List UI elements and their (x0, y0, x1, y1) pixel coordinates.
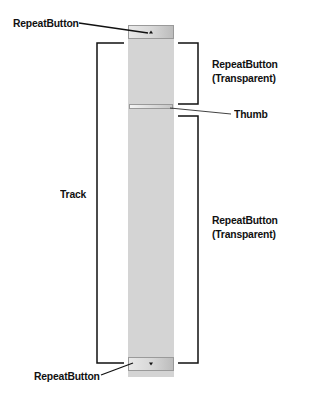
label-bottom-repeat-button: RepeatButton (34, 369, 100, 383)
label-upper-transparent-2: (Transparent) (212, 71, 276, 85)
label-lower-transparent-2: (Transparent) (212, 227, 276, 241)
label-upper-transparent-1: RepeatButton (212, 57, 278, 71)
label-lower-transparent-1: RepeatButton (212, 213, 278, 227)
label-thumb: Thumb (234, 107, 268, 121)
label-track: Track (60, 187, 86, 201)
